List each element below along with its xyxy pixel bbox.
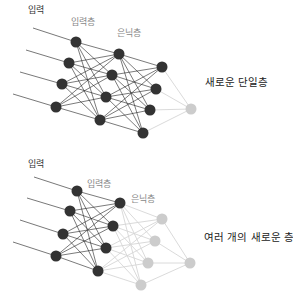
hidden-layer-1-node — [107, 70, 118, 81]
input-line — [27, 198, 70, 211]
input-line — [20, 72, 62, 84]
input-line — [26, 50, 69, 63]
hidden-layer-1-node — [95, 115, 106, 126]
connection-edge — [100, 110, 150, 120]
bottom-hidden-layer-label: 은닉층 — [131, 195, 155, 204]
connection-edge — [56, 256, 98, 271]
input-line — [13, 242, 56, 256]
connection-edge — [112, 75, 143, 133]
new-hidden-layer-node — [143, 258, 154, 269]
connection-edge — [150, 109, 191, 110]
connection-edge — [162, 219, 190, 263]
hidden-layer-2-node — [157, 62, 168, 73]
top-hidden-layer-label: 은닉층 — [117, 29, 141, 38]
new-output-layer-node — [186, 104, 197, 115]
new-hidden-layer-node — [136, 280, 147, 291]
top-input-layer-label: 입력층 — [71, 18, 95, 27]
hidden-layer-1-node — [101, 92, 112, 103]
hidden-layer-1-node — [115, 198, 126, 209]
input-line — [13, 94, 56, 107]
connection-edge — [69, 63, 100, 120]
hidden-layer-1-node — [114, 49, 125, 60]
hidden-layer-1-node — [108, 221, 119, 232]
bottom-caption-multiple-new-layers: 여러 개의 새로운 층 — [204, 232, 293, 243]
input-line — [20, 220, 63, 234]
input-layer-node — [58, 229, 69, 240]
top-input-label: 입력 — [28, 6, 44, 15]
input-layer-node — [57, 79, 68, 90]
new-hidden-layer-node — [150, 236, 161, 247]
connection-edge — [69, 54, 119, 63]
connection-edge — [77, 191, 106, 248]
input-layer-node — [51, 251, 62, 262]
input-layer-node — [71, 37, 82, 48]
bottom-input-layer-label: 입력층 — [87, 180, 111, 189]
new-output-layer-node — [185, 258, 196, 269]
top-network-single-new-layer — [13, 28, 197, 139]
input-layer-node — [64, 58, 75, 69]
connection-edge — [162, 67, 191, 109]
connection-edge — [156, 89, 191, 109]
bottom-input-label: 입력 — [28, 160, 44, 169]
new-hidden-layer-node — [157, 214, 168, 225]
hidden-layer-2-node — [151, 84, 162, 95]
connection-edge — [155, 241, 190, 263]
input-layer-node — [72, 186, 83, 197]
input-line — [34, 177, 77, 191]
top-caption-new-single-layer: 새로운 단일층 — [205, 77, 268, 88]
bottom-network-multiple-new-layers — [13, 177, 196, 291]
input-layer-node — [65, 206, 76, 217]
hidden-layer-2-node — [138, 128, 149, 139]
hidden-layer-1-node — [101, 243, 112, 254]
input-layer-node — [51, 102, 62, 113]
connection-edge — [56, 97, 106, 107]
connection-edge — [76, 42, 106, 97]
input-line — [33, 28, 76, 42]
hidden-layer-1-node — [93, 266, 104, 277]
neural-network-diagram — [0, 0, 293, 303]
hidden-layer-2-node — [145, 105, 156, 116]
